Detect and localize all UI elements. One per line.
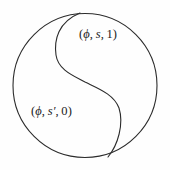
label-top-phi: ϕ <box>83 27 90 41</box>
yin-yang-figure: (ϕ, s, 1) (ϕ, s′, 0) <box>0 0 170 170</box>
figure-canvas <box>0 0 170 170</box>
label-top-close-paren: ) <box>113 27 117 41</box>
label-phi-s-1: (ϕ, s, 1) <box>79 28 117 41</box>
label-bottom-phi: ϕ <box>35 104 42 118</box>
label-bottom-close-paren: ) <box>68 104 72 118</box>
label-phi-sprime-0: (ϕ, s′, 0) <box>31 105 72 118</box>
